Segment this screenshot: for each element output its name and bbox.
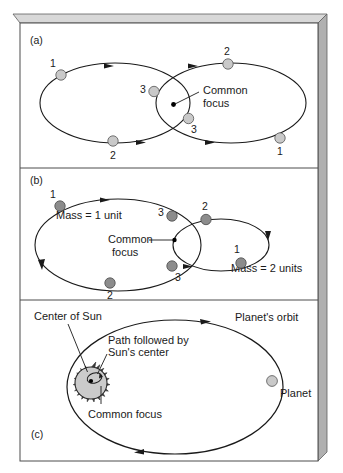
panel-b-common-focus-line1: Common <box>108 233 153 245</box>
panel-a-common-focus-line2: focus <box>203 97 230 109</box>
panel-b-small-body-3-label: 3 <box>175 271 181 283</box>
planet-label: Planet <box>280 387 311 399</box>
panel-a-left-body-2-label: 2 <box>110 149 116 161</box>
panel-a-left-body-1 <box>56 70 66 80</box>
panel-b-small-body-2-label: 2 <box>202 200 208 212</box>
sun-path-label-line1: Path followed by <box>108 334 189 346</box>
planet-body <box>267 376 278 387</box>
panel-b-label: (b) <box>30 174 43 186</box>
panel-c-common-focus-label: Common focus <box>88 408 162 420</box>
panel-a-left-body-2 <box>108 136 118 146</box>
panel-a-right-body-1-label: 1 <box>277 145 283 157</box>
panel-b-small-body-1 <box>236 258 246 268</box>
center-of-sun-label: Center of Sun <box>34 310 102 322</box>
panel-c-label: (c) <box>31 428 43 440</box>
frame-right-bevel <box>318 14 327 461</box>
panel-b-mass-1-label: Mass = 1 unit <box>56 209 122 221</box>
panel-b-large-body-3-label: 3 <box>158 206 164 218</box>
orbital-mechanics-figure: (a) Common focus 1 2 3 2 1 3 (b) <box>0 0 343 473</box>
panel-b-common-focus-dot <box>172 238 176 242</box>
panel-b-small-body-3 <box>167 261 177 271</box>
figure-root: (a) Common focus 1 2 3 2 1 3 (b) <box>0 0 343 473</box>
panel-a-common-focus-line1: Common <box>203 84 248 96</box>
panel-b-large-body-2 <box>105 278 115 288</box>
panel-b-large-body-1-label: 1 <box>50 188 56 200</box>
panel-a-left-body-3 <box>149 86 159 96</box>
frame-face <box>20 23 318 461</box>
panel-a-common-focus-dot <box>171 102 176 107</box>
panel-a-left-body-3-label: 3 <box>140 83 146 95</box>
panel-b-large-body-2-label: 2 <box>107 289 113 301</box>
sun-path-label-line2: Sun's center <box>108 346 169 358</box>
panel-b-small-body-1-label: 1 <box>234 243 240 255</box>
panel-b-large-body-3 <box>167 211 177 221</box>
panel-a-label: (a) <box>30 34 43 46</box>
panel-a-right-body-3-label: 3 <box>191 123 197 135</box>
panel-a-right-body-2-label: 2 <box>224 45 230 57</box>
panel-b-large-body-1 <box>55 201 65 211</box>
frame-top-bevel <box>13 14 327 23</box>
panel-b-small-body-2 <box>201 214 211 224</box>
planets-orbit-label: Planet's orbit <box>235 311 298 323</box>
panel-b-common-focus-line2: focus <box>112 246 139 258</box>
panel-c-common-focus-dot <box>89 379 93 383</box>
panel-a-right-body-1 <box>275 133 285 143</box>
panel-a-left-body-1-label: 1 <box>50 57 56 69</box>
panel-a-right-body-2 <box>223 59 233 69</box>
